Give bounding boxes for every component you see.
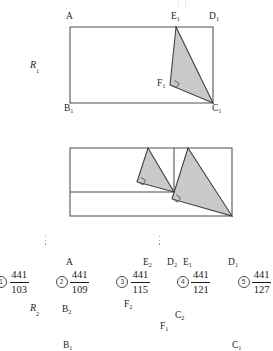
choice-fraction-5: 441 127 <box>252 269 271 294</box>
fraction-numerator: 441 <box>192 269 210 280</box>
vertex-label-b1: B1 <box>64 104 74 114</box>
answer-choice-2[interactable]: 2 441 109 <box>56 269 90 294</box>
answer-choice-1[interactable]: 1 441 103 <box>0 269 29 294</box>
figure-r2: R2 A E2 D2 E1 D1 B2 C2 F2 F1 B1 C1 <box>0 125 273 235</box>
vertex-label-a: A <box>66 12 73 22</box>
figure-r2-drawing <box>0 125 273 235</box>
vertex-label-f1: F1 <box>157 79 165 89</box>
fraction-denominator: 109 <box>71 284 89 295</box>
fraction-numerator: 441 <box>10 269 28 280</box>
shaded-triangle-e1f1c1 <box>170 27 213 103</box>
fraction-numerator: 441 <box>71 269 89 280</box>
figure-r1: R1 A D1 B1 C1 E1 F1 <box>0 0 273 125</box>
fraction-bar <box>131 282 150 283</box>
choice-number-3: 3 <box>116 276 128 288</box>
vertex-label-b2: B2 <box>62 305 72 315</box>
choice-fraction-2: 441 109 <box>70 269 89 294</box>
vertex-label-c1: C1 <box>232 341 242 351</box>
vertex-label-b1: B1 <box>63 341 73 351</box>
figure-r1-drawing <box>0 0 273 125</box>
vertex-label-d1: D1 <box>209 12 219 22</box>
fraction-denominator: 127 <box>253 284 271 295</box>
choice-number-5: 5 <box>238 276 250 288</box>
choice-number-1: 1 <box>0 276 7 288</box>
choice-number-4: 4 <box>177 276 189 288</box>
vertex-label-f1: F1 <box>160 322 168 332</box>
fraction-numerator: 441 <box>253 269 271 280</box>
choice-fraction-1: 441 103 <box>10 269 29 294</box>
fraction-bar <box>10 282 29 283</box>
fraction-denominator: 115 <box>132 284 149 295</box>
figure-label-r2: R2 <box>30 302 39 315</box>
choice-number-2: 2 <box>56 276 68 288</box>
answer-choice-5[interactable]: 5 441 127 <box>238 269 272 294</box>
answer-choice-4[interactable]: 4 441 121 <box>177 269 211 294</box>
fraction-numerator: 441 <box>131 269 149 280</box>
figure-label-r1: R1 <box>30 59 39 72</box>
fraction-denominator: 103 <box>10 284 28 295</box>
fraction-denominator: 121 <box>192 284 210 295</box>
fraction-bar <box>252 282 271 283</box>
choice-fraction-4: 441 121 <box>191 269 210 294</box>
vertex-label-c2: C2 <box>175 311 185 321</box>
fraction-bar <box>191 282 210 283</box>
fraction-bar <box>70 282 89 283</box>
vertex-label-e1: E1 <box>171 12 180 22</box>
shaded-triangle-e1f1c1 <box>172 148 232 216</box>
vertex-label-c1: C1 <box>212 104 222 114</box>
answer-choices: 1 441 103 2 441 109 3 441 115 4 <box>0 262 273 302</box>
ellipsis-left <box>44 236 47 245</box>
answer-choice-3[interactable]: 3 441 115 <box>116 269 150 294</box>
choice-fraction-3: 441 115 <box>131 269 150 294</box>
shaded-triangle-e2f2c2 <box>137 148 174 192</box>
ellipsis-right <box>158 236 161 245</box>
